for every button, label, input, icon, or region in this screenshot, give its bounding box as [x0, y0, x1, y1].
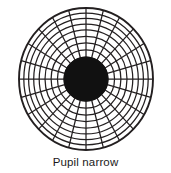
iris-polar-grid-diagram [0, 0, 171, 173]
pupil-disc [64, 57, 108, 101]
figure-caption: Pupil narrow [0, 156, 171, 169]
figure-container: Pupil narrow [0, 0, 171, 173]
